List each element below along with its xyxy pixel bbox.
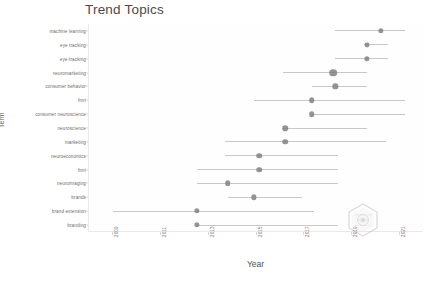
trend-median-point[interactable] [309,111,315,117]
x-tick-label: 2017 [305,226,310,237]
trend-median-point[interactable] [256,167,262,173]
trend-row [89,218,423,231]
y-tick-label: eye tracking [60,42,86,47]
trend-median-point[interactable] [256,153,262,159]
trend-row [89,107,423,121]
trend-range-line [197,183,338,184]
y-tick-label: fmri [78,98,86,103]
trend-range-line [228,197,302,198]
trend-median-point[interactable] [194,222,199,227]
trend-row [89,204,423,218]
trend-row [89,66,423,80]
x-tick-label: 2019 [353,226,358,237]
x-tick-mark [399,232,400,235]
x-tick-label: 2015 [258,226,263,237]
trend-median-point[interactable] [194,209,199,214]
trend-median-point[interactable] [329,69,337,77]
trend-row [89,135,423,149]
y-tick-label: neuroimaging [57,181,86,186]
trend-range-line [312,114,405,115]
x-tick-mark [160,232,161,235]
y-tick-label: neuroscience [57,126,86,131]
trend-range-line [197,169,338,170]
trend-median-point[interactable] [309,97,315,103]
plot-area [88,24,423,232]
trend-range-line [335,58,388,59]
trend-median-point[interactable] [251,195,256,200]
trend-median-point[interactable] [282,139,288,145]
trend-row [89,190,423,204]
trend-median-point[interactable] [333,84,338,89]
trend-median-point[interactable] [282,125,288,131]
y-tick-label: brands [71,195,86,200]
trend-row [89,163,423,177]
y-tick-label: consumer neuroscience [35,112,86,117]
x-tick-label: 2009 [114,226,119,237]
x-tick-mark [112,232,113,235]
trend-row [89,93,423,107]
y-tick-label: consumer behavior [45,84,86,89]
y-tick-label: neuroeconomics [51,153,86,158]
trend-median-point[interactable] [225,181,231,187]
x-tick-label: 2021 [401,226,406,237]
y-tick-label: neuromarketing [53,70,86,75]
page-title: Trend Topics [85,2,164,17]
trend-range-line [283,72,367,73]
trend-row [89,176,423,190]
trend-range-line [225,141,385,142]
trend-row [89,52,423,66]
x-tick-mark [208,232,209,235]
y-tick-label: fmri [78,167,86,172]
x-axis-title: Year [88,259,423,269]
y-axis-labels: machine learningeye trackingeye-tracking… [0,24,86,232]
trend-median-point[interactable] [364,42,369,47]
trend-range-line [197,225,338,226]
trend-range-line [335,30,404,31]
trend-range-line [113,211,314,212]
y-tick-label: eye-tracking [60,56,86,61]
trend-range-line [312,86,367,87]
plot-inner [89,24,423,231]
y-tick-label: marketing [65,139,86,144]
trend-row [89,79,423,93]
x-tick-mark [256,232,257,235]
trend-row [89,149,423,163]
y-tick-label: brand extension [52,209,86,214]
y-tick-label: machine learning [49,28,86,33]
x-tick-label: 2013 [210,226,215,237]
trend-row [89,24,423,38]
trend-row [89,38,423,52]
trend-row [89,121,423,135]
trend-median-point[interactable] [364,56,369,61]
y-tick-label: branding [67,223,86,228]
trend-topics-chart: Trend Topics Term machine learningeye tr… [0,0,437,287]
x-tick-label: 2011 [162,227,167,237]
trend-range-line [254,100,405,101]
trend-range-line [225,155,337,156]
trend-median-point[interactable] [378,28,383,33]
trend-range-line [283,128,367,129]
